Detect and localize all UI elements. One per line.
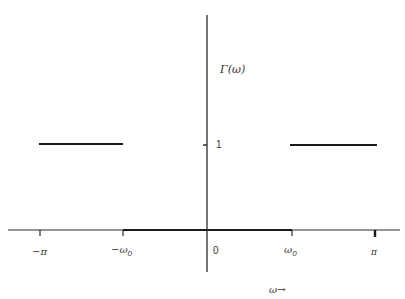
x-tick-label-zero: 0: [213, 245, 219, 257]
x-tick-label-w0: ω0: [284, 244, 297, 260]
x-tick-label-pi: π: [371, 246, 377, 258]
y-tick-label-one: 1: [216, 139, 222, 151]
neg-omega-subscript: 0: [128, 249, 132, 258]
plot-area: [0, 0, 405, 299]
x-tick-label-neg-w0: −ω0: [111, 244, 132, 260]
omega-subscript: 0: [292, 249, 296, 258]
omega-text: ω: [284, 244, 292, 255]
y-axis-label: Γ(ω): [220, 64, 245, 76]
x-axis-label: ω→: [269, 284, 286, 296]
neg-omega-text: −ω: [111, 244, 128, 255]
x-tick-label-neg-pi: −π: [32, 246, 47, 258]
